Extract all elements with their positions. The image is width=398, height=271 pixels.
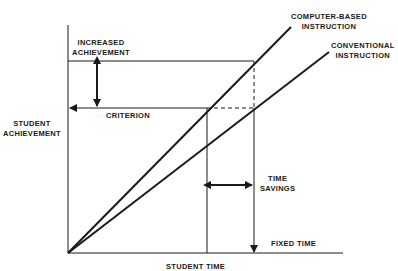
conventional-label-line2: INSTRUCTION — [331, 51, 395, 61]
time-savings-label: TIME SAVINGS — [260, 174, 295, 194]
increased-achievement-label-line2: ACHIEVEMENT — [72, 48, 130, 58]
computer-based-label: COMPUTER-BASED INSTRUCTION — [291, 12, 367, 32]
computer-based-label-line2: INSTRUCTION — [291, 22, 367, 32]
increased-achievement-label: INCREASED ACHIEVEMENT — [72, 38, 130, 58]
criterion-label: CRITERION — [106, 111, 150, 121]
increased-achievement-label-line1: INCREASED — [72, 38, 130, 48]
y-axis-label-line1: STUDENT — [3, 119, 61, 129]
time-savings-label-line1: TIME — [260, 174, 295, 184]
x-axis-label-text: STUDENT TIME — [166, 262, 225, 271]
conventional-line — [68, 52, 329, 253]
student-achievement-label: STUDENT ACHIEVEMENT — [3, 119, 61, 139]
criterion-label-text: CRITERION — [106, 111, 150, 121]
y-axis-label-line2: ACHIEVEMENT — [3, 129, 61, 139]
fixed-time-label-text: FIXED TIME — [271, 239, 316, 249]
computer-based-label-line1: COMPUTER-BASED — [291, 12, 367, 22]
conventional-label-line1: CONVENTIONAL — [331, 41, 395, 51]
time-savings-label-line2: SAVINGS — [260, 184, 295, 194]
fixed-time-label: FIXED TIME — [271, 239, 316, 249]
conventional-label: CONVENTIONAL INSTRUCTION — [331, 41, 395, 61]
student-time-label: STUDENT TIME — [166, 262, 225, 271]
